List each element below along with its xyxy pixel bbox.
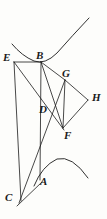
segment-G-H — [65, 80, 88, 100]
upper-parabola-curve — [12, 18, 89, 62]
segment-G-F — [63, 80, 65, 128]
geometry-canvas — [0, 0, 107, 219]
segment-B-A — [40, 62, 41, 180]
segment-E-F — [14, 62, 64, 130]
vertex-label-G: G — [62, 68, 70, 79]
segment-H-F — [63, 100, 88, 128]
geometry-figure: E B G H D F A C — [0, 0, 107, 219]
segment-E-C — [14, 62, 21, 201]
vertex-label-D: D — [39, 104, 47, 115]
vertex-label-H: H — [92, 92, 101, 103]
vertex-label-F: F — [64, 130, 71, 141]
vertex-label-A: A — [40, 176, 47, 187]
vertex-label-C: C — [5, 192, 12, 203]
vertex-label-B: B — [36, 50, 43, 61]
curves-group — [12, 18, 89, 186]
segments-group — [14, 62, 88, 206]
vertex-label-E: E — [3, 52, 10, 63]
